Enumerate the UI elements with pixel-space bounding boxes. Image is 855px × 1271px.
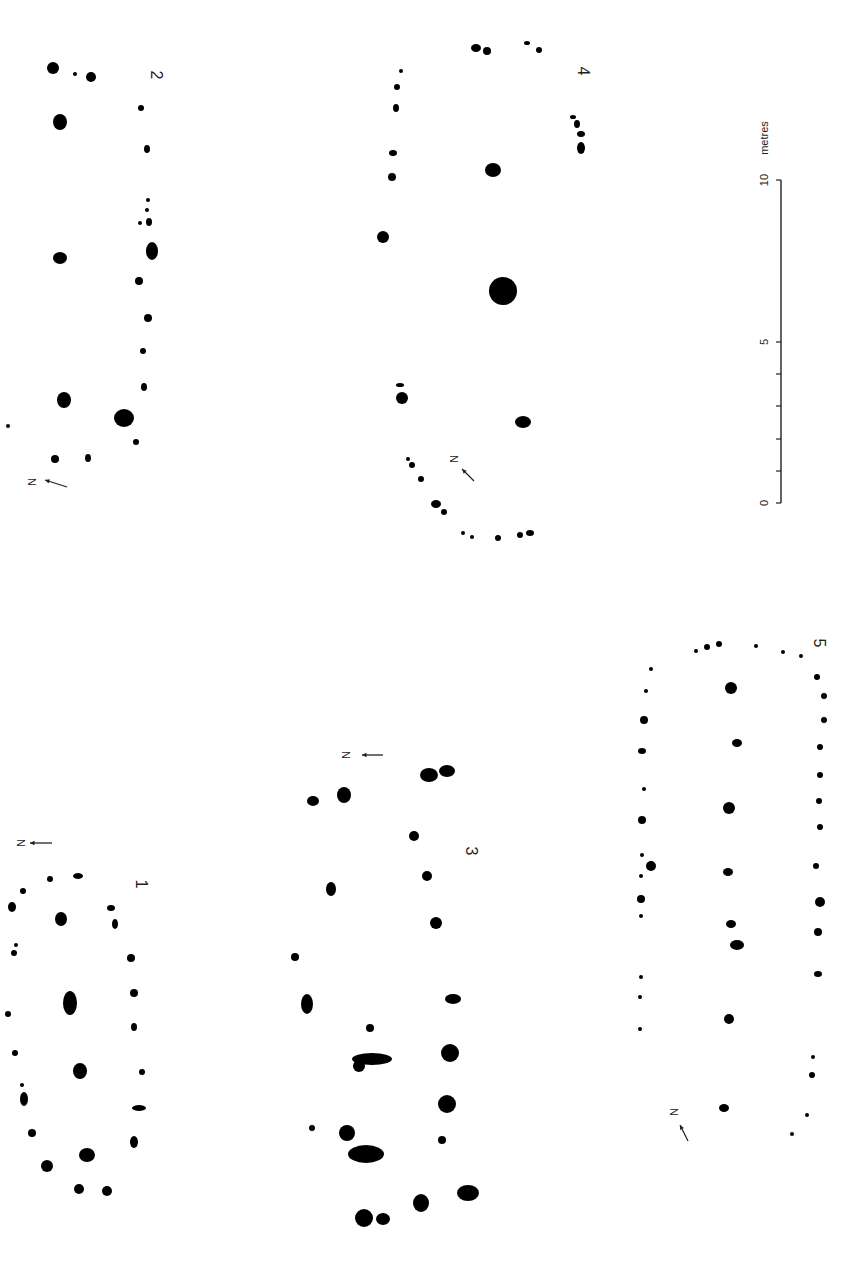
posthole	[725, 682, 737, 694]
posthole	[73, 1063, 87, 1079]
plan-3: 3N	[291, 751, 480, 1227]
posthole	[441, 509, 447, 515]
posthole	[57, 392, 71, 408]
posthole	[130, 989, 138, 997]
posthole	[813, 863, 819, 869]
posthole	[138, 221, 142, 225]
posthole	[388, 173, 396, 181]
scale-tick-label: 0	[758, 500, 770, 506]
plans-group: 1N2N3N4N5N	[5, 41, 828, 1227]
posthole-plans-figure: 1N2N3N4N5N 0510 metres	[0, 0, 855, 1271]
posthole	[5, 1011, 11, 1017]
posthole	[642, 787, 646, 791]
posthole	[574, 120, 580, 128]
posthole	[799, 654, 803, 658]
posthole	[438, 1095, 456, 1113]
plan-number-label: 2	[148, 71, 165, 80]
posthole	[418, 476, 424, 482]
posthole	[716, 641, 722, 647]
posthole	[133, 439, 139, 445]
posthole	[471, 44, 481, 52]
north-arrow-icon: N	[448, 455, 474, 481]
posthole	[790, 1132, 794, 1136]
posthole	[396, 392, 408, 404]
posthole	[730, 940, 744, 950]
posthole	[47, 876, 53, 882]
posthole	[79, 1148, 95, 1162]
posthole	[366, 1024, 374, 1032]
north-label: N	[340, 751, 352, 759]
plan-1: 1N	[5, 839, 150, 1196]
north-arrow-icon: N	[15, 839, 52, 847]
north-arrow-icon: N	[668, 1108, 688, 1141]
posthole	[53, 252, 67, 264]
posthole	[85, 454, 91, 462]
posthole	[144, 145, 150, 153]
posthole	[811, 1055, 815, 1059]
plan-number-label: 4	[575, 67, 592, 76]
posthole	[639, 914, 643, 918]
posthole	[86, 72, 96, 82]
posthole	[470, 535, 474, 539]
posthole	[814, 971, 822, 977]
posthole	[639, 975, 643, 979]
posthole	[420, 768, 438, 782]
plan-4: 4N	[377, 41, 592, 541]
posthole	[704, 644, 710, 650]
posthole	[821, 717, 827, 723]
posthole	[445, 994, 461, 1004]
posthole	[146, 218, 152, 226]
posthole	[817, 824, 823, 830]
posthole	[146, 198, 150, 202]
posthole	[6, 424, 10, 428]
posthole	[11, 950, 17, 956]
posthole	[146, 242, 158, 260]
posthole	[140, 348, 146, 354]
posthole	[307, 796, 319, 806]
posthole	[638, 1027, 642, 1031]
north-arrow-icon: N	[340, 751, 383, 759]
posthole	[483, 47, 491, 55]
posthole	[638, 816, 646, 824]
plan-5: 5N	[637, 639, 828, 1141]
scale-tick-label: 10	[758, 174, 770, 186]
posthole	[821, 693, 827, 699]
posthole	[399, 69, 403, 73]
posthole	[719, 1104, 729, 1112]
posthole	[524, 41, 530, 45]
plan-number-label: 1	[133, 880, 150, 889]
scale-bar: 0510 metres	[758, 121, 781, 506]
posthole	[517, 532, 523, 538]
posthole	[406, 457, 410, 461]
posthole	[20, 888, 26, 894]
posthole	[489, 277, 517, 305]
posthole	[14, 943, 18, 947]
posthole	[107, 905, 115, 911]
posthole	[649, 667, 653, 671]
posthole	[536, 47, 542, 53]
north-label: N	[15, 839, 27, 847]
posthole	[639, 874, 643, 878]
posthole	[724, 1014, 734, 1024]
posthole	[409, 831, 419, 841]
posthole	[817, 744, 823, 750]
posthole	[348, 1145, 384, 1163]
posthole	[461, 531, 465, 535]
posthole	[809, 1072, 815, 1078]
posthole	[805, 1113, 809, 1117]
posthole	[430, 917, 442, 929]
posthole	[20, 1092, 28, 1106]
posthole	[138, 105, 144, 111]
posthole	[457, 1185, 479, 1201]
posthole	[28, 1129, 36, 1137]
posthole	[353, 1060, 365, 1072]
posthole	[816, 798, 822, 804]
posthole	[485, 163, 501, 177]
posthole	[139, 1069, 145, 1075]
scale-bar-ticks: 0510	[758, 174, 781, 506]
posthole	[817, 772, 823, 778]
posthole	[337, 787, 351, 803]
posthole	[732, 739, 742, 747]
figure-svg: 1N2N3N4N5N 0510 metres	[0, 0, 855, 1271]
posthole	[431, 500, 441, 508]
